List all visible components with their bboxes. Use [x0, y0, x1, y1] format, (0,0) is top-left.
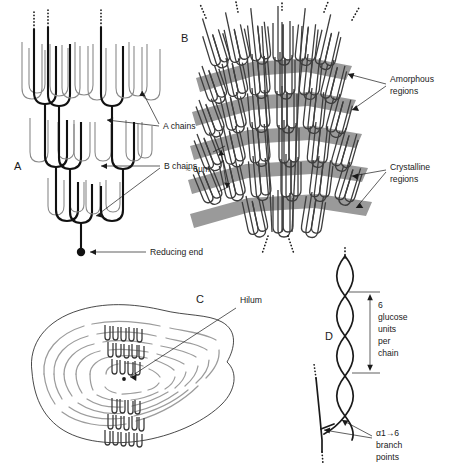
amorphous-regions-label-line1: Amorphous — [390, 74, 434, 84]
panel-a-letter: A — [14, 160, 22, 172]
branch-points-label-line1: α1→6 — [376, 428, 399, 438]
glucose-units-label-line3: units — [378, 324, 396, 334]
glucose-units-label-line2: glucose — [378, 312, 408, 322]
branch-points-label-line2: branch — [376, 440, 402, 450]
glucose-units-label-line4: per — [378, 336, 391, 346]
hilum-label: Hilum — [240, 295, 262, 305]
figure-canvas: A A chains B chains Reducing end B — [0, 0, 455, 468]
panel-c-letter: C — [196, 293, 204, 305]
glucose-units-label-line1: 6 — [378, 300, 383, 310]
crystalline-regions-label-line1: Crystalline — [390, 162, 430, 172]
glucose-units-label-line5: chain — [378, 348, 399, 358]
hilum-point — [122, 377, 126, 381]
branch-points-label-line3: points — [376, 452, 399, 462]
panel-d-letter: D — [325, 330, 333, 342]
crystalline-regions-label-line2: regions — [390, 174, 418, 184]
reducing-end-label: Reducing end — [150, 247, 203, 257]
starch-structure-figure: A A chains B chains Reducing end B — [0, 0, 455, 468]
amorphous-regions-label-line2: regions — [390, 86, 418, 96]
a-chains-label: A chains — [163, 121, 196, 131]
reducing-end-dot — [77, 248, 85, 256]
scale-bar-label: ≈ 6µm — [186, 164, 210, 174]
panel-b-letter: B — [181, 32, 188, 44]
